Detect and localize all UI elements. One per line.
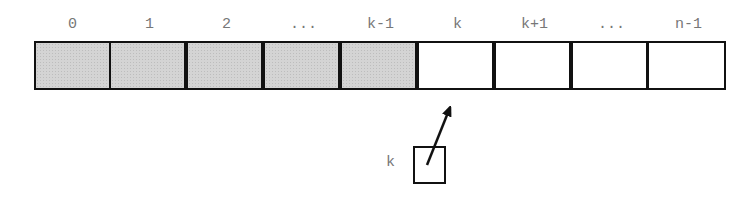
pointer-arrow-icon — [0, 0, 752, 199]
